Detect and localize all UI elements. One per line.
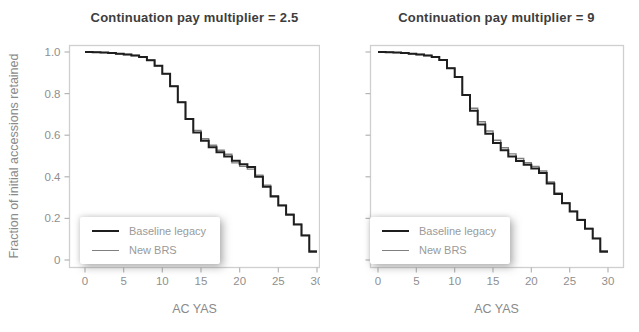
legend-label: New BRS [129, 244, 177, 256]
y-tick-label: 0.6 [45, 129, 61, 141]
y-axis-label: Fraction of initial accessions retained [7, 54, 21, 259]
x-tick-label: 25 [272, 275, 285, 287]
legend-box: Baseline legacy New BRS [370, 217, 510, 264]
panel-multiplier-2p5: Continuation pay multiplier = 2.5 051015… [0, 0, 320, 332]
x-tick-label: 10 [156, 275, 169, 287]
baseline-legacy-line-swatch [382, 230, 409, 232]
y-tick-label: 0.2 [45, 212, 61, 224]
baseline-legacy-line-swatch [92, 230, 119, 232]
legend-item-baseline-legacy: Baseline legacy [92, 224, 220, 239]
x-tick-label: 25 [563, 275, 576, 287]
y-tick-label: 0.8 [45, 88, 61, 100]
x-axis-label: AC YAS [370, 302, 623, 316]
plot-svg: 05101520253000.20.40.60.81.0 [0, 0, 320, 332]
x-tick-label: 30 [602, 275, 615, 287]
legend-item-new-brs: New BRS [382, 243, 510, 258]
y-tick-label: 0 [54, 254, 60, 266]
panel-multiplier-9: Continuation pay multiplier = 9 05101520… [320, 0, 639, 332]
legend-item-new-brs: New BRS [92, 243, 220, 258]
x-tick-label: 20 [233, 275, 246, 287]
x-tick-label: 5 [413, 275, 419, 287]
x-tick-label: 10 [448, 275, 461, 287]
x-tick-label: 30 [311, 275, 320, 287]
x-tick-label: 5 [120, 275, 126, 287]
plot-svg: 051015202530 [320, 0, 639, 332]
new-brs-line-swatch [92, 250, 119, 251]
new-brs-line-swatch [382, 250, 409, 251]
x-tick-label: 15 [195, 275, 208, 287]
y-tick-label: 1.0 [45, 46, 61, 58]
x-tick-label: 0 [82, 275, 88, 287]
legend-label: Baseline legacy [419, 225, 496, 237]
x-tick-label: 0 [375, 275, 381, 287]
legend-item-baseline-legacy: Baseline legacy [382, 224, 510, 239]
legend-label: New BRS [419, 244, 467, 256]
x-tick-label: 20 [525, 275, 538, 287]
y-tick-label: 0.4 [45, 171, 62, 183]
x-axis-label: AC YAS [69, 302, 320, 316]
x-tick-label: 15 [487, 275, 500, 287]
legend-box: Baseline legacy New BRS [80, 217, 220, 264]
retention-figure: Continuation pay multiplier = 2.5 051015… [0, 0, 639, 332]
legend-label: Baseline legacy [129, 225, 206, 237]
